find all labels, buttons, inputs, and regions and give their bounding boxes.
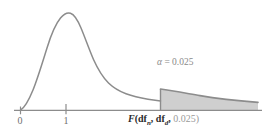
f-distribution-figure: 0 1 α = 0.025 F(dfn, dfd, 0.025) bbox=[0, 0, 269, 137]
alpha-annotation: α = 0.025 bbox=[157, 58, 193, 68]
critical-region-shading bbox=[161, 89, 259, 110]
critical-alpha-value: 0.025 bbox=[173, 113, 196, 124]
density-curve bbox=[21, 13, 161, 110]
paren-close: ) bbox=[196, 113, 199, 124]
alpha-value: 0.025 bbox=[172, 57, 193, 67]
alpha-equals-sign: = bbox=[162, 57, 172, 67]
x-axis-tick-label-1: 1 bbox=[58, 116, 74, 126]
df-denominator-term: df bbox=[156, 113, 165, 124]
df-numerator-term: df bbox=[138, 113, 147, 124]
f-statistic-symbol: F bbox=[128, 113, 135, 124]
x-axis-tick-label-0: 0 bbox=[12, 116, 28, 126]
critical-value-label: F(dfn, dfd, 0.025) bbox=[128, 114, 199, 127]
